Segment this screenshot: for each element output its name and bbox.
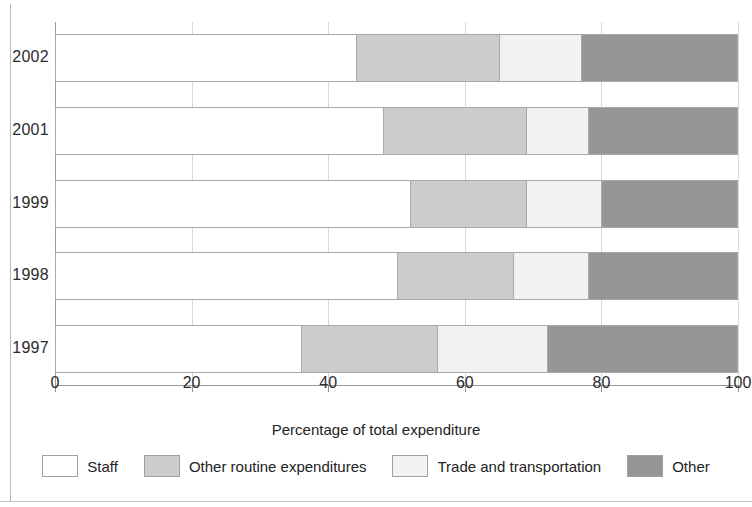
y-tick-label: 2001 [0, 121, 49, 139]
y-tick-label: 1999 [0, 194, 49, 212]
plot-area [55, 22, 738, 385]
bar-segment [55, 252, 397, 300]
x-axis-line [55, 385, 738, 386]
x-tick-label: 40 [319, 374, 337, 392]
gridline [738, 22, 739, 385]
chart-legend: StaffOther routine expendituresTrade and… [0, 455, 752, 477]
y-tick-label: 1998 [0, 266, 49, 284]
bar-row [55, 252, 738, 300]
bar-segment [301, 325, 438, 373]
x-tick-label: 0 [51, 374, 60, 392]
bar-segment [513, 252, 588, 300]
bar-segment [397, 252, 513, 300]
bar-row [55, 180, 738, 228]
chart-figure: 20022001199919981997 020406080100 Percen… [0, 0, 752, 507]
legend-swatch [42, 455, 78, 477]
legend-swatch [627, 455, 663, 477]
bar-segment [601, 180, 738, 228]
legend-item: Other [627, 455, 710, 477]
bar-row [55, 34, 738, 82]
bar-segment [526, 180, 601, 228]
bar-segment [383, 107, 526, 155]
page-frame-bottom-rule [0, 501, 752, 502]
bar-segment [55, 107, 383, 155]
legend-swatch [392, 455, 428, 477]
bar-segment [588, 252, 738, 300]
bar-segment [547, 325, 738, 373]
bar-segment [55, 180, 410, 228]
x-tick-label: 80 [592, 374, 610, 392]
bar-row [55, 325, 738, 373]
legend-item: Other routine expenditures [144, 455, 367, 477]
x-tick-label: 100 [725, 374, 752, 392]
legend-item: Staff [42, 455, 118, 477]
bar-segment [55, 325, 301, 373]
x-axis-title: Percentage of total expenditure [0, 421, 752, 438]
bar-segment [437, 325, 546, 373]
legend-item: Trade and transportation [392, 455, 601, 477]
legend-label: Other [672, 458, 710, 475]
bar-segment [356, 34, 499, 82]
bar-segment [410, 180, 526, 228]
x-tick-label: 20 [183, 374, 201, 392]
bar-segment [526, 107, 587, 155]
bar-segment [55, 34, 356, 82]
legend-label: Staff [87, 458, 118, 475]
x-tick-label: 60 [456, 374, 474, 392]
bar-segment [581, 34, 738, 82]
bar-segment [588, 107, 738, 155]
y-tick-label: 1997 [0, 339, 49, 357]
legend-swatch [144, 455, 180, 477]
legend-label: Other routine expenditures [189, 458, 367, 475]
bar-row [55, 107, 738, 155]
legend-label: Trade and transportation [437, 458, 601, 475]
y-tick-label: 2002 [0, 48, 49, 66]
bar-segment [499, 34, 581, 82]
